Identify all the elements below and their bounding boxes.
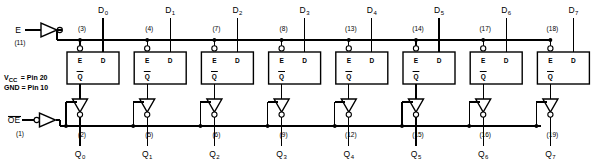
data-input-label-0-text: D0 xyxy=(98,5,109,16)
data-input-label-1: D1 xyxy=(165,5,176,16)
latch-port-d-2: D xyxy=(235,57,240,64)
latch-port-e-6: E xyxy=(481,57,486,64)
output-label-2: Q2 xyxy=(209,149,220,160)
latch-port-e-2: E xyxy=(212,57,217,64)
enable-input-pin: (11) xyxy=(14,39,25,47)
output-label-1-text: Q1 xyxy=(142,149,153,160)
data-input-label-6-text: D6 xyxy=(501,5,512,16)
data-input-label-1-text: D1 xyxy=(165,5,176,16)
latch-port-qbar-4: Q xyxy=(346,73,351,81)
output-label-1: Q1 xyxy=(142,149,153,160)
data-input-label-2-text: D2 xyxy=(232,5,243,16)
output-pin-1: (5) xyxy=(145,131,153,139)
latch-box-7 xyxy=(537,52,589,84)
output-label-7: Q7 xyxy=(545,149,556,160)
latch-port-qbar-7: Q xyxy=(548,73,553,81)
gnd-note: GND = Pin 10 xyxy=(4,84,48,91)
output-enable-input-pin: (1) xyxy=(16,130,24,138)
data-input-pin-4: (13) xyxy=(345,25,357,33)
output-pin-6: (16) xyxy=(479,131,491,139)
tristate-buffer-7-inversion-bubble xyxy=(548,112,553,117)
latch-enable-bubble-0 xyxy=(77,46,82,51)
latch-enable-bubble-4 xyxy=(346,46,351,51)
output-label-0: Q0 xyxy=(75,149,86,160)
data-input-pin-6: (17) xyxy=(479,25,491,33)
data-input-label-0: D0 xyxy=(98,5,109,16)
output-enable-inverter-inversion-bubble xyxy=(34,117,39,122)
data-input-label-5-text: D5 xyxy=(434,5,445,16)
latch-port-qbar-3: Q xyxy=(279,73,284,81)
tristate-buffer-4-body xyxy=(341,99,356,112)
tristate-buffer-1-inversion-bubble xyxy=(145,112,150,117)
latch-port-e-7: E xyxy=(548,57,553,64)
data-input-label-7: D7 xyxy=(568,5,579,16)
latch-enable-bubble-2 xyxy=(212,46,217,51)
latch-port-qbar-6: Q xyxy=(481,73,486,81)
data-input-label-4-text: D4 xyxy=(367,5,378,16)
latch-port-d-7: D xyxy=(571,57,576,64)
tristate-buffer-0-inversion-bubble xyxy=(77,112,82,117)
data-input-pin-7: (18) xyxy=(547,25,559,33)
output-label-4: Q4 xyxy=(344,149,355,160)
output-label-5: Q5 xyxy=(411,149,422,160)
output-enable-inverter xyxy=(34,113,55,127)
latch-port-e-0: E xyxy=(78,57,83,64)
tristate-buffer-3-body xyxy=(274,99,289,112)
data-input-label-6: D6 xyxy=(501,5,512,16)
latch-port-e-4: E xyxy=(347,57,352,64)
data-input-pin-1: (4) xyxy=(145,25,153,33)
latch-enable-bubble-7 xyxy=(548,46,553,51)
output-label-7-text: Q7 xyxy=(545,149,556,160)
output-pin-3: (9) xyxy=(280,131,288,139)
output-label-6: Q6 xyxy=(478,149,489,160)
tristate-buffer-2-body xyxy=(207,99,222,112)
latch-port-d-1: D xyxy=(168,57,173,64)
data-input-pin-0: (3) xyxy=(78,25,86,33)
latch-port-d-0: D xyxy=(101,57,106,64)
latch-box-3 xyxy=(269,52,321,84)
tristate-buffer-3-inversion-bubble xyxy=(279,112,284,117)
vcc-note: VCC = Pin 20 xyxy=(4,74,48,83)
output-label-6-text: Q6 xyxy=(478,149,489,160)
latch-port-e-1: E xyxy=(145,57,150,64)
latch-enable-bubble-3 xyxy=(279,46,284,51)
latch-port-d-3: D xyxy=(302,57,307,64)
latch-enable-bubble-6 xyxy=(481,46,486,51)
latch-port-d-6: D xyxy=(504,57,509,64)
output-label-3: Q3 xyxy=(276,149,287,160)
data-input-label-3: D3 xyxy=(300,5,311,16)
latch-port-qbar-0: Q xyxy=(77,73,82,81)
logic-diagram: E(11)OE(1)D0(3)EDQ(2)Q0D1(4)EDQ(5)Q1D2(7… xyxy=(0,0,591,163)
latch-box-1 xyxy=(134,52,186,84)
output-pin-0: (2) xyxy=(78,131,86,139)
output-label-5-text: Q5 xyxy=(411,149,422,160)
tristate-buffer-5-body xyxy=(409,99,424,112)
latch-box-2 xyxy=(201,52,253,84)
tristate-buffer-2-inversion-bubble xyxy=(212,112,217,117)
tristate-buffer-6-inversion-bubble xyxy=(481,112,486,117)
data-input-label-5: D5 xyxy=(434,5,445,16)
latch-port-qbar-5: Q xyxy=(413,73,418,81)
data-input-pin-2: (7) xyxy=(212,25,220,33)
latch-box-4 xyxy=(336,52,388,84)
data-input-pin-5: (14) xyxy=(412,25,424,33)
tristate-buffer-4-inversion-bubble xyxy=(346,112,351,117)
tristate-buffer-5-inversion-bubble xyxy=(413,112,418,117)
latch-port-qbar-2: Q xyxy=(212,73,217,81)
latch-port-d-5: D xyxy=(437,57,442,64)
output-label-3-text: Q3 xyxy=(276,149,287,160)
data-input-label-3-text: D3 xyxy=(300,5,311,16)
enable-input-label: E xyxy=(15,25,21,35)
latch-port-e-5: E xyxy=(414,57,419,64)
tristate-buffer-6-body xyxy=(476,99,491,112)
logic-diagram-canvas: E(11)OE(1)D0(3)EDQ(2)Q0D1(4)EDQ(5)Q1D2(7… xyxy=(0,0,591,163)
output-label-0-text: Q0 xyxy=(75,149,86,160)
enable-inverter-body xyxy=(41,23,57,37)
latch-box-5 xyxy=(403,52,455,84)
tristate-buffer-0-body xyxy=(73,99,88,112)
data-input-label-7-text: D7 xyxy=(568,5,579,16)
latch-box-0 xyxy=(67,52,119,84)
output-pin-4: (12) xyxy=(345,131,357,139)
output-label-2-text: Q2 xyxy=(209,149,220,160)
latch-port-e-3: E xyxy=(279,57,284,64)
